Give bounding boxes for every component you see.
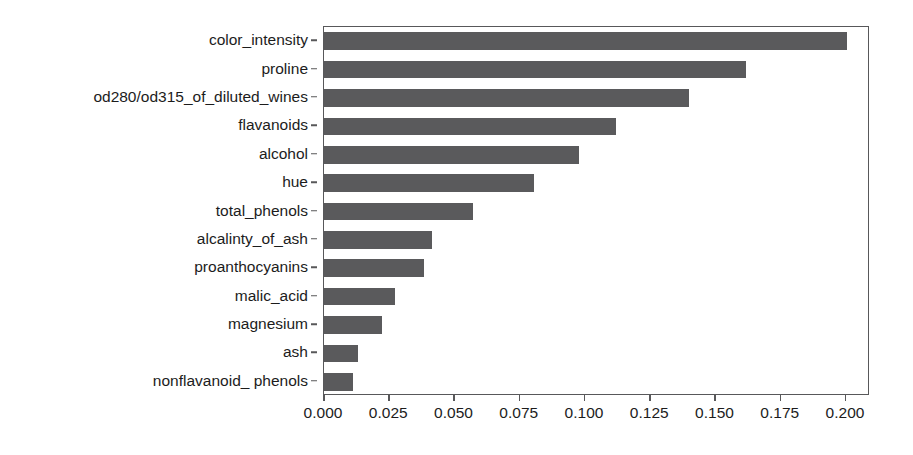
bar-hue <box>324 174 534 192</box>
bar-magnesium <box>324 316 382 334</box>
y-axis-tick <box>311 125 317 127</box>
bar-row <box>324 89 868 107</box>
bar-proline <box>324 61 746 79</box>
x-axis-tick <box>584 395 586 401</box>
x-axis-tick-label: 0.025 <box>369 405 408 421</box>
y-axis-tick-label: od280/od315_of_diluted_wines <box>0 89 308 105</box>
plot-area <box>323 26 869 395</box>
y-axis-tick <box>311 153 317 155</box>
bar-row <box>324 146 868 164</box>
y-axis-tick <box>311 68 317 70</box>
bar-row <box>324 32 868 50</box>
x-axis-tick <box>388 395 390 401</box>
bar-row <box>324 203 868 221</box>
bar-flavanoids <box>324 118 616 136</box>
y-axis-tick-label: magnesium <box>0 316 308 332</box>
bar-row <box>324 345 868 363</box>
y-axis-tick-label: alcohol <box>0 146 308 162</box>
x-axis-tick-label: 0.050 <box>434 405 473 421</box>
x-axis-tick <box>649 395 651 401</box>
x-axis-tick-label: 0.000 <box>304 405 343 421</box>
bar-total-phenols <box>324 203 473 221</box>
y-axis-tick <box>311 295 317 297</box>
bar-color-intensity <box>324 32 847 50</box>
y-axis-tick <box>311 39 317 41</box>
x-axis-tick-label: 0.075 <box>499 405 538 421</box>
bar-row <box>324 174 868 192</box>
bar-row <box>324 373 868 391</box>
bar-row <box>324 259 868 277</box>
y-axis-tick-label: ash <box>0 345 308 361</box>
bar-alcohol <box>324 146 579 164</box>
y-axis-tick <box>311 238 317 240</box>
x-axis-tick-label: 0.125 <box>630 405 669 421</box>
bar-row <box>324 118 868 136</box>
bar-proanthocyanins <box>324 259 424 277</box>
y-axis-tick <box>311 181 317 183</box>
y-axis-tick-label: malic_acid <box>0 288 308 304</box>
y-axis-tick-label: alcalinty_of_ash <box>0 231 308 247</box>
x-axis-tick <box>519 395 521 401</box>
bar-od280-od315-of-diluted-wines <box>324 89 689 107</box>
x-axis-tick-label: 0.200 <box>826 405 865 421</box>
x-axis-tick <box>780 395 782 401</box>
bar-row <box>324 61 868 79</box>
y-axis-tick-label: flavanoids <box>0 118 308 134</box>
x-axis-tick-label: 0.175 <box>760 405 799 421</box>
x-axis-tick <box>323 395 325 401</box>
bar-row <box>324 316 868 334</box>
y-axis-tick <box>311 323 317 325</box>
x-axis-tick-label: 0.100 <box>565 405 604 421</box>
bar-nonflavanoid-phenols <box>324 373 353 391</box>
y-axis-tick-label: hue <box>0 174 308 190</box>
figure-canvas: color_intensityprolineod280/od315_of_dil… <box>0 0 913 455</box>
y-axis-labels: color_intensityprolineod280/od315_of_dil… <box>0 26 317 395</box>
y-axis-tick-label: proline <box>0 61 308 77</box>
bar-row <box>324 288 868 306</box>
x-axis: 0.0000.0250.0500.0750.1000.1250.1500.175… <box>323 395 869 455</box>
bar-series <box>324 27 868 394</box>
x-axis-tick <box>845 395 847 401</box>
bar-row <box>324 231 868 249</box>
y-axis-tick-label: nonflavanoid_ phenols <box>0 373 308 389</box>
y-axis-tick-label: color_intensity <box>0 32 308 48</box>
y-axis-tick <box>311 96 317 98</box>
x-axis-tick <box>453 395 455 401</box>
bar-ash <box>324 345 358 363</box>
y-axis-tick <box>311 210 317 212</box>
x-axis-tick-label: 0.150 <box>695 405 734 421</box>
y-axis-tick-label: total_phenols <box>0 203 308 219</box>
y-axis-tick <box>311 380 317 382</box>
y-axis-tick-label: proanthocyanins <box>0 260 308 276</box>
bar-alcalinty-of-ash <box>324 231 432 249</box>
bar-malic-acid <box>324 288 395 306</box>
y-axis-tick <box>311 352 317 354</box>
y-axis-tick <box>311 267 317 269</box>
x-axis-tick <box>714 395 716 401</box>
